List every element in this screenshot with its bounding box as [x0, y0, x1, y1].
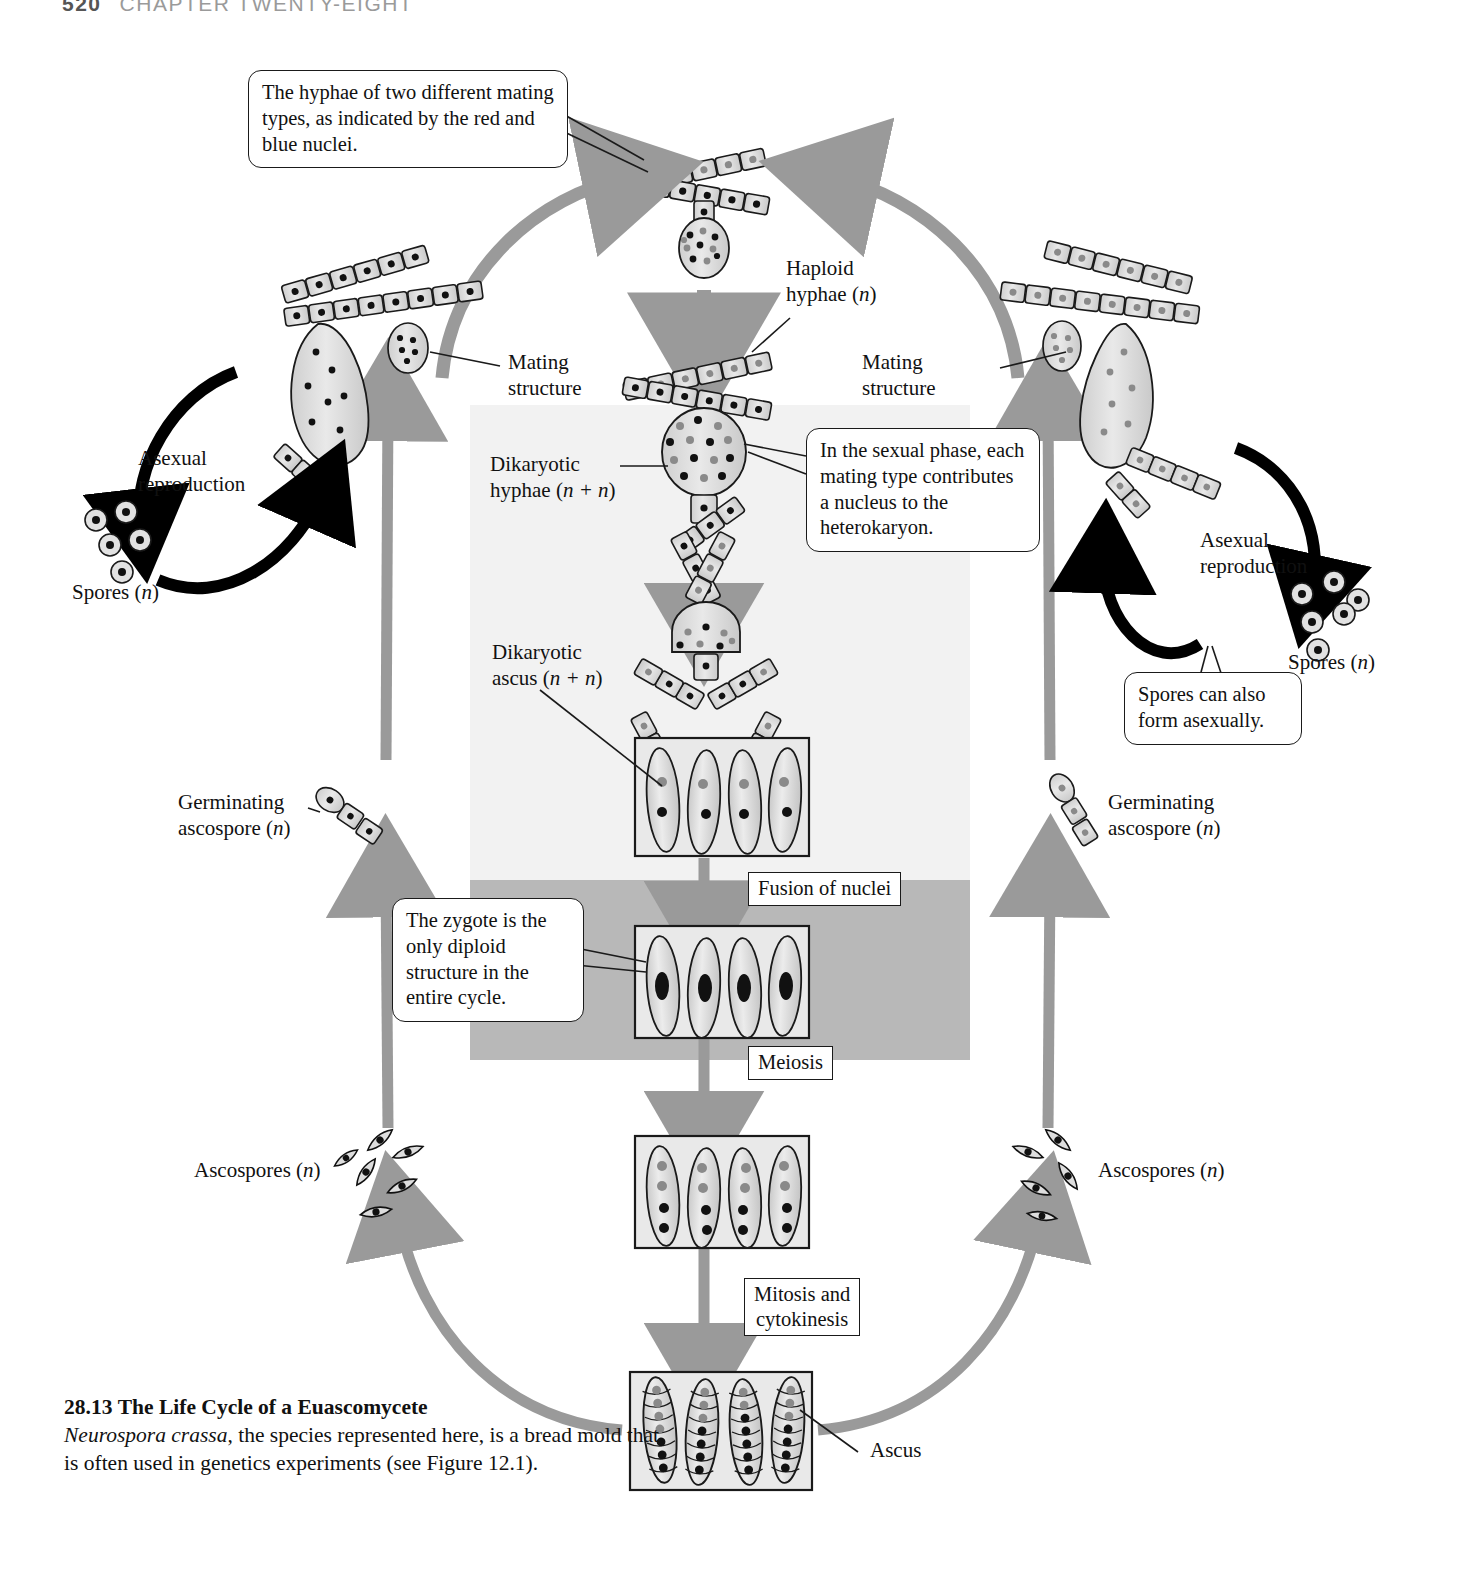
label-asexual-reproduction-right: Asexual reproduction [1200, 528, 1307, 579]
mating-structure-left-line1: Mating [508, 350, 581, 376]
haploid-hyphae-line1: Haploid [786, 256, 876, 282]
caption-title-line: 28.13 The Life Cycle of a Euascomycete [64, 1394, 664, 1422]
germ-right-line1: Germinating [1108, 790, 1221, 816]
dikaryotic-ascus-line2: ascus (n + n) [492, 666, 602, 692]
label-asexual-reproduction-left: Asexual reproduction [138, 446, 245, 497]
caption-body: Neurospora crassa, the species represent… [64, 1422, 664, 1478]
asexual-right-line2: reproduction [1200, 554, 1307, 580]
label-ascus: Ascus [870, 1438, 921, 1464]
callout-spores-asexual: Spores can also form asexually. [1124, 672, 1302, 745]
meiosis-product-structure [635, 1136, 809, 1249]
label-mating-structure-right: Mating structure [862, 350, 935, 401]
germinating-ascospore-left [310, 782, 386, 844]
dikaryotic-hyphae-line1: Dikaryotic [490, 452, 616, 478]
label-dikaryotic-hyphae: Dikaryotic hyphae (n + n) [490, 452, 616, 503]
germ-left-line2: ascospore (n) [178, 816, 291, 842]
cycle-arrow-left-to-top [442, 178, 626, 378]
process-label-mitosis-cytokinesis: Mitosis and cytokinesis [744, 1278, 860, 1336]
mating-structure-left-line2: structure [508, 376, 581, 402]
ascospore-cluster-right [1011, 1126, 1080, 1222]
callout-zygote-diploid: The zygote is the only diploid structure… [392, 898, 584, 1022]
spore-cluster-right [1291, 571, 1369, 661]
mitosis-line-1: Mitosis and [754, 1282, 850, 1307]
label-germinating-ascospore-right: Germinating ascospore (n) [1108, 790, 1221, 841]
asexual-arrow-left-up [158, 496, 320, 588]
zygote-diploid-structure [635, 926, 809, 1039]
haploid-hyphae-line2: hyphae (n) [786, 282, 876, 308]
asexual-left-line2: reproduction [138, 472, 245, 498]
asexual-right-line1: Asexual [1200, 528, 1307, 554]
asexual-arrow-right-up [1104, 560, 1200, 653]
figure-title: The Life Cycle of a Euascomycete [118, 1395, 428, 1419]
label-germinating-ascospore-left: Germinating ascospore (n) [178, 790, 291, 841]
process-label-fusion-of-nuclei: Fusion of nuclei [748, 872, 901, 906]
arrow-left-to-mating-structure [386, 404, 388, 760]
hyphae-cluster-left [273, 245, 483, 505]
figure-number: 28.13 [64, 1395, 112, 1419]
asexual-left-line1: Asexual [138, 446, 245, 472]
species-name: Neurospora crassa [64, 1423, 227, 1447]
label-dikaryotic-ascus: Dikaryotic ascus (n + n) [492, 640, 602, 691]
figure-caption: 28.13 The Life Cycle of a Euascomycete N… [64, 1394, 664, 1478]
process-label-meiosis: Meiosis [748, 1046, 833, 1080]
label-haploid-hyphae: Haploid hyphae (n) [786, 256, 876, 307]
label-ascospores-right: Ascospores (n) [1098, 1158, 1225, 1184]
germ-right-line2: ascospore (n) [1108, 816, 1221, 842]
label-ascospores-left: Ascospores (n) [194, 1158, 321, 1184]
callout-sexual-phase-nucleus: In the sexual phase, each mating type co… [806, 428, 1040, 552]
arrow-left-ascospore-germination [386, 880, 388, 1128]
arrow-right-ascospore-germination [1048, 880, 1050, 1128]
mating-structure-right-line1: Mating [862, 350, 935, 376]
callout-hyphae-mating-types: The hyphae of two different mating types… [248, 70, 568, 168]
arrow-right-to-mating-structure [1048, 404, 1050, 760]
ascospore-cluster-left [332, 1126, 424, 1219]
dikaryotic-hyphae-structure [622, 352, 772, 605]
germinating-ascospore-right [1043, 769, 1104, 846]
mitosis-line-2: cytokinesis [754, 1307, 850, 1332]
label-spores-left: Spores (n) [72, 580, 159, 606]
label-mating-structure-left: Mating structure [508, 350, 581, 401]
dikaryotic-ascus-structure [630, 602, 809, 856]
label-spores-right: Spores (n) [1288, 650, 1375, 676]
dikaryotic-hyphae-line2: hyphae (n + n) [490, 478, 616, 504]
germ-left-line1: Germinating [178, 790, 291, 816]
mating-structure-right-line2: structure [862, 376, 935, 402]
dikaryotic-ascus-line1: Dikaryotic [492, 640, 602, 666]
